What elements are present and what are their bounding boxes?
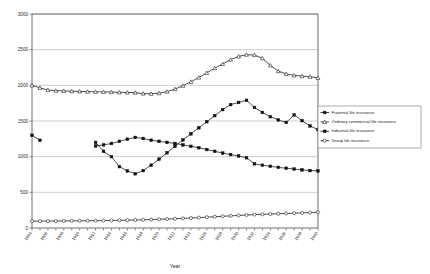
legend-item-2[interactable]: Ordinary commercial life insurance <box>321 119 397 124</box>
data-point-marker <box>269 115 272 118</box>
data-point-marker <box>253 213 256 216</box>
data-point-marker <box>197 126 200 129</box>
x-tick-label: 1932 <box>246 230 256 241</box>
data-point-marker <box>205 216 208 219</box>
data-point-marker <box>86 219 89 222</box>
line-chart-figure: 050010001500200025003000 190419061908191… <box>0 0 430 274</box>
data-point-marker <box>269 165 272 168</box>
data-point-marker <box>285 167 288 170</box>
data-point-marker <box>110 142 113 145</box>
data-point-marker <box>261 164 264 167</box>
data-point-marker <box>190 145 193 148</box>
data-point-marker <box>39 139 42 142</box>
x-tick-label: 1914 <box>103 230 113 241</box>
data-point-marker <box>277 212 280 215</box>
series-1 <box>31 134 320 172</box>
data-point-marker <box>174 145 177 148</box>
y-tick-label: 0 <box>25 226 28 231</box>
y-tick-label: 1000 <box>18 154 29 159</box>
data-point-marker <box>221 152 224 155</box>
x-tick-label: 1930 <box>230 230 240 241</box>
data-point-marker <box>197 76 201 80</box>
data-point-marker <box>213 150 216 153</box>
x-tick-label: 1940 <box>309 230 319 241</box>
legend-item-label: Ordinary commercial life insurance <box>332 119 397 124</box>
data-point-marker <box>94 219 97 222</box>
data-point-marker <box>102 150 105 153</box>
data-point-marker <box>134 218 137 221</box>
x-tick-label: 1936 <box>277 230 287 241</box>
x-tick-label: 1912 <box>87 230 97 241</box>
data-point-marker <box>150 164 153 167</box>
data-point-marker <box>213 114 216 117</box>
data-point-marker <box>301 119 304 122</box>
data-point-marker <box>221 62 225 66</box>
y-axis-tick-labels: 050010001500200025003000 <box>18 12 32 231</box>
data-point-marker <box>205 148 208 151</box>
data-point-marker <box>118 165 121 168</box>
x-tick-label: 1904 <box>23 230 33 241</box>
data-point-marker <box>118 140 121 143</box>
data-point-marker <box>62 219 65 222</box>
data-point-marker <box>142 137 145 140</box>
x-tick-label: 1920 <box>150 230 160 241</box>
data-point-marker <box>237 155 240 158</box>
data-point-marker <box>197 216 200 219</box>
y-tick-label: 1500 <box>18 119 29 124</box>
x-tick-label: 1928 <box>214 230 224 241</box>
series-line <box>96 137 318 171</box>
y-tick-label: 3000 <box>18 12 29 17</box>
data-point-marker <box>158 218 161 221</box>
data-point-marker <box>142 169 145 172</box>
data-point-marker <box>237 214 240 217</box>
x-axis-tick-labels: 1904190619081910191219141916191819201922… <box>23 228 319 241</box>
data-point-marker <box>229 103 232 106</box>
chart-canvas: 050010001500200025003000 190419061908191… <box>0 0 430 274</box>
data-point-marker <box>31 134 34 137</box>
chart-legend[interactable]: Fraternal life insuranceOrdinary commerc… <box>318 106 421 148</box>
data-point-marker <box>309 169 312 172</box>
legend-item-label: Industrial life insurance <box>332 128 375 133</box>
data-point-marker <box>309 211 312 214</box>
data-point-marker <box>30 220 33 223</box>
data-point-marker <box>221 215 224 218</box>
data-point-marker <box>245 99 248 102</box>
y-tick-label: 2500 <box>18 47 29 52</box>
data-point-marker <box>293 168 296 171</box>
data-point-marker <box>166 151 169 154</box>
data-point-marker <box>237 101 240 104</box>
legend-item-label: Fraternal life insurance <box>332 110 375 115</box>
x-tick-label: 1908 <box>55 230 65 241</box>
data-point-marker <box>166 217 169 220</box>
data-point-marker <box>102 219 105 222</box>
data-point-marker <box>150 139 153 142</box>
data-point-marker <box>126 219 129 222</box>
legend-item-label: Group life insurance <box>332 138 370 143</box>
data-point-marker <box>261 213 264 216</box>
data-point-marker <box>261 111 264 114</box>
data-point-marker <box>309 125 312 128</box>
data-point-marker <box>189 216 192 219</box>
data-series-layer <box>30 53 320 223</box>
data-point-marker <box>110 155 113 158</box>
data-point-marker <box>317 170 320 173</box>
x-tick-label: 1910 <box>71 230 81 241</box>
y-tick-label: 500 <box>20 190 28 195</box>
data-point-marker <box>126 170 129 173</box>
data-point-marker <box>189 80 193 84</box>
data-point-marker <box>197 146 200 149</box>
data-point-marker <box>269 212 272 215</box>
data-point-marker <box>293 114 296 117</box>
data-point-marker <box>166 141 169 144</box>
data-point-marker <box>221 108 224 111</box>
data-point-marker <box>323 139 326 142</box>
data-point-marker <box>213 215 216 218</box>
data-point-marker <box>46 220 49 223</box>
x-tick-label: 1918 <box>134 230 144 241</box>
data-point-marker <box>102 144 105 147</box>
data-point-marker <box>173 217 176 220</box>
data-point-marker <box>285 212 288 215</box>
data-point-marker <box>126 138 129 141</box>
data-point-marker <box>174 142 177 145</box>
data-point-marker <box>190 132 193 135</box>
